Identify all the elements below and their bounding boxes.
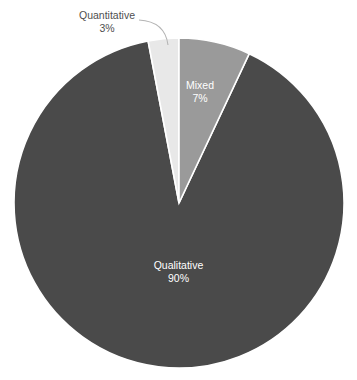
pie-chart: Qualitative 90% Mixed 7% Quantitative 3% [0,0,357,380]
pie-chart-canvas [0,0,357,380]
